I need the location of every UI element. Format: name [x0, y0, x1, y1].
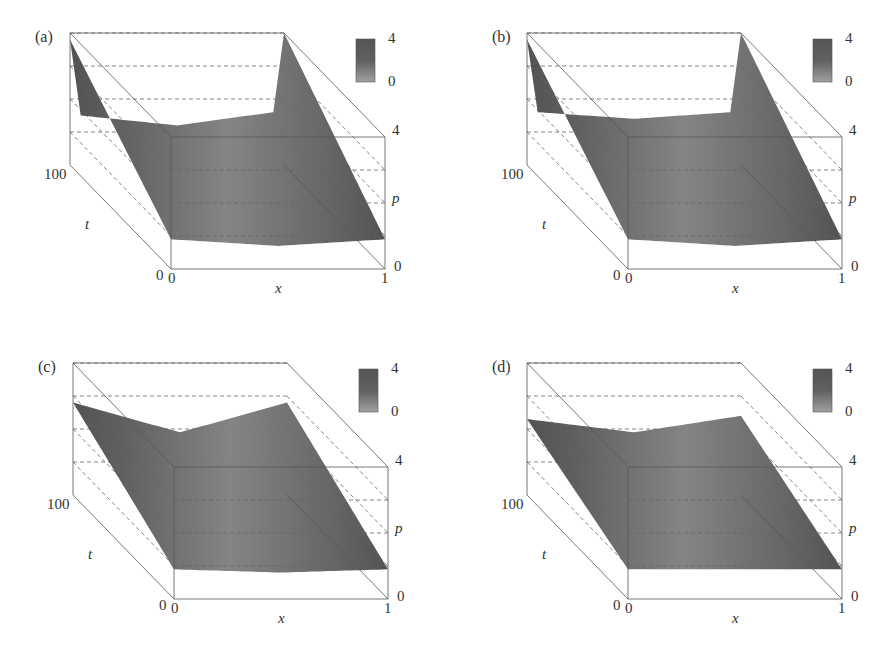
x-min-label: 0 — [168, 270, 176, 287]
surface-plot-panel-b: (b) 4 0 4 p 0 100 t 0 0 x 1 — [457, 0, 888, 324]
x-min-label: 0 — [625, 270, 633, 287]
p-max-label: 4 — [849, 452, 857, 469]
t-axis-label: t — [542, 216, 546, 233]
p-min-label: 0 — [394, 258, 402, 275]
x-axis-label: x — [732, 610, 739, 627]
colorbar — [359, 369, 378, 412]
t-max-label: 100 — [47, 496, 70, 513]
p-axis-label: p — [849, 190, 857, 207]
p-axis-label: p — [395, 520, 403, 537]
surface-plot-panel-c: (c) 4 0 4 p 0 100 t 0 0 x 1 — [3, 330, 447, 649]
colorbar — [356, 39, 375, 82]
cb-min-label: 0 — [388, 73, 396, 90]
p-min-label: 0 — [397, 588, 405, 605]
x-max-label: 1 — [384, 600, 392, 617]
x-max-label: 1 — [838, 270, 846, 287]
surface-plot — [0, 0, 444, 324]
panel-label: (b) — [492, 28, 511, 46]
t-min-label: 0 — [159, 597, 167, 614]
x-axis-label: x — [278, 610, 285, 627]
t-max-label: 100 — [501, 166, 524, 183]
t-axis-label: t — [85, 216, 89, 233]
surface-mesh — [73, 403, 388, 573]
p-max-label: 4 — [392, 122, 400, 139]
panel-label: (a) — [35, 28, 53, 46]
x-max-label: 1 — [381, 270, 389, 287]
t-min-label: 0 — [156, 267, 164, 284]
t-axis-label: t — [542, 546, 546, 563]
cb-max-label: 4 — [388, 30, 396, 47]
p-min-label: 0 — [851, 258, 859, 275]
x-max-label: 1 — [838, 600, 846, 617]
x-axis-label: x — [732, 280, 739, 297]
surface-mesh — [527, 416, 842, 570]
p-min-label: 0 — [851, 588, 859, 605]
cb-max-label: 4 — [845, 30, 853, 47]
x-min-label: 0 — [625, 600, 633, 617]
cb-min-label: 0 — [845, 403, 853, 420]
cb-max-label: 4 — [391, 360, 399, 377]
surface-plot — [457, 0, 888, 324]
x-axis-label: x — [275, 280, 282, 297]
surface-plot-panel-d: (d) 4 0 4 p 0 100 t 0 0 x 1 — [457, 330, 888, 649]
surface-plot-panel-a: (a) 4 0 4 p 0 100 t 0 0 x 1 — [0, 0, 444, 324]
t-max-label: 100 — [44, 166, 67, 183]
panel-label: (d) — [492, 358, 511, 376]
panel-label: (c) — [38, 358, 56, 376]
colorbar — [813, 39, 832, 82]
p-max-label: 4 — [849, 122, 857, 139]
t-max-label: 100 — [501, 496, 524, 513]
colorbar — [813, 369, 832, 412]
surface-plot — [457, 330, 888, 649]
cb-min-label: 0 — [391, 403, 399, 420]
t-min-label: 0 — [613, 267, 621, 284]
surface-plot — [3, 330, 447, 649]
t-min-label: 0 — [613, 597, 621, 614]
cb-max-label: 4 — [845, 360, 853, 377]
p-axis-label: p — [392, 190, 400, 207]
p-axis-label: p — [849, 520, 857, 537]
t-axis-label: t — [88, 546, 92, 563]
cb-min-label: 0 — [845, 73, 853, 90]
p-max-label: 4 — [395, 452, 403, 469]
x-min-label: 0 — [171, 600, 179, 617]
